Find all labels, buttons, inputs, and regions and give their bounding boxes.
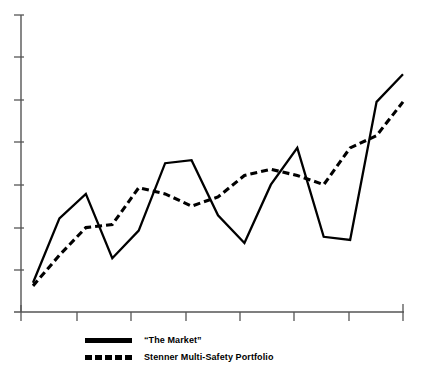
legend-swatch-solid-line-icon [85,338,132,343]
series-line-stenner-multi-safety-portfolio [33,102,403,286]
legend-swatch-dashed-line-icon [85,355,132,360]
chart-container: “The Market” Stenner Multi-Safety Portfo… [0,0,421,378]
legend-label-stenner-multi-safety-portfolio: Stenner Multi-Safety Portfolio [144,352,274,363]
legend-item-stenner-multi-safety-portfolio: Stenner Multi-Safety Portfolio [85,349,385,366]
chart-legend: “The Market” Stenner Multi-Safety Portfo… [85,332,385,366]
legend-item-the-market: “The Market” [85,332,385,349]
legend-label-the-market: “The Market” [144,335,202,346]
series-line-the-market [33,74,403,283]
y-axis-ticks [14,15,24,270]
line-chart-plot [0,0,421,378]
